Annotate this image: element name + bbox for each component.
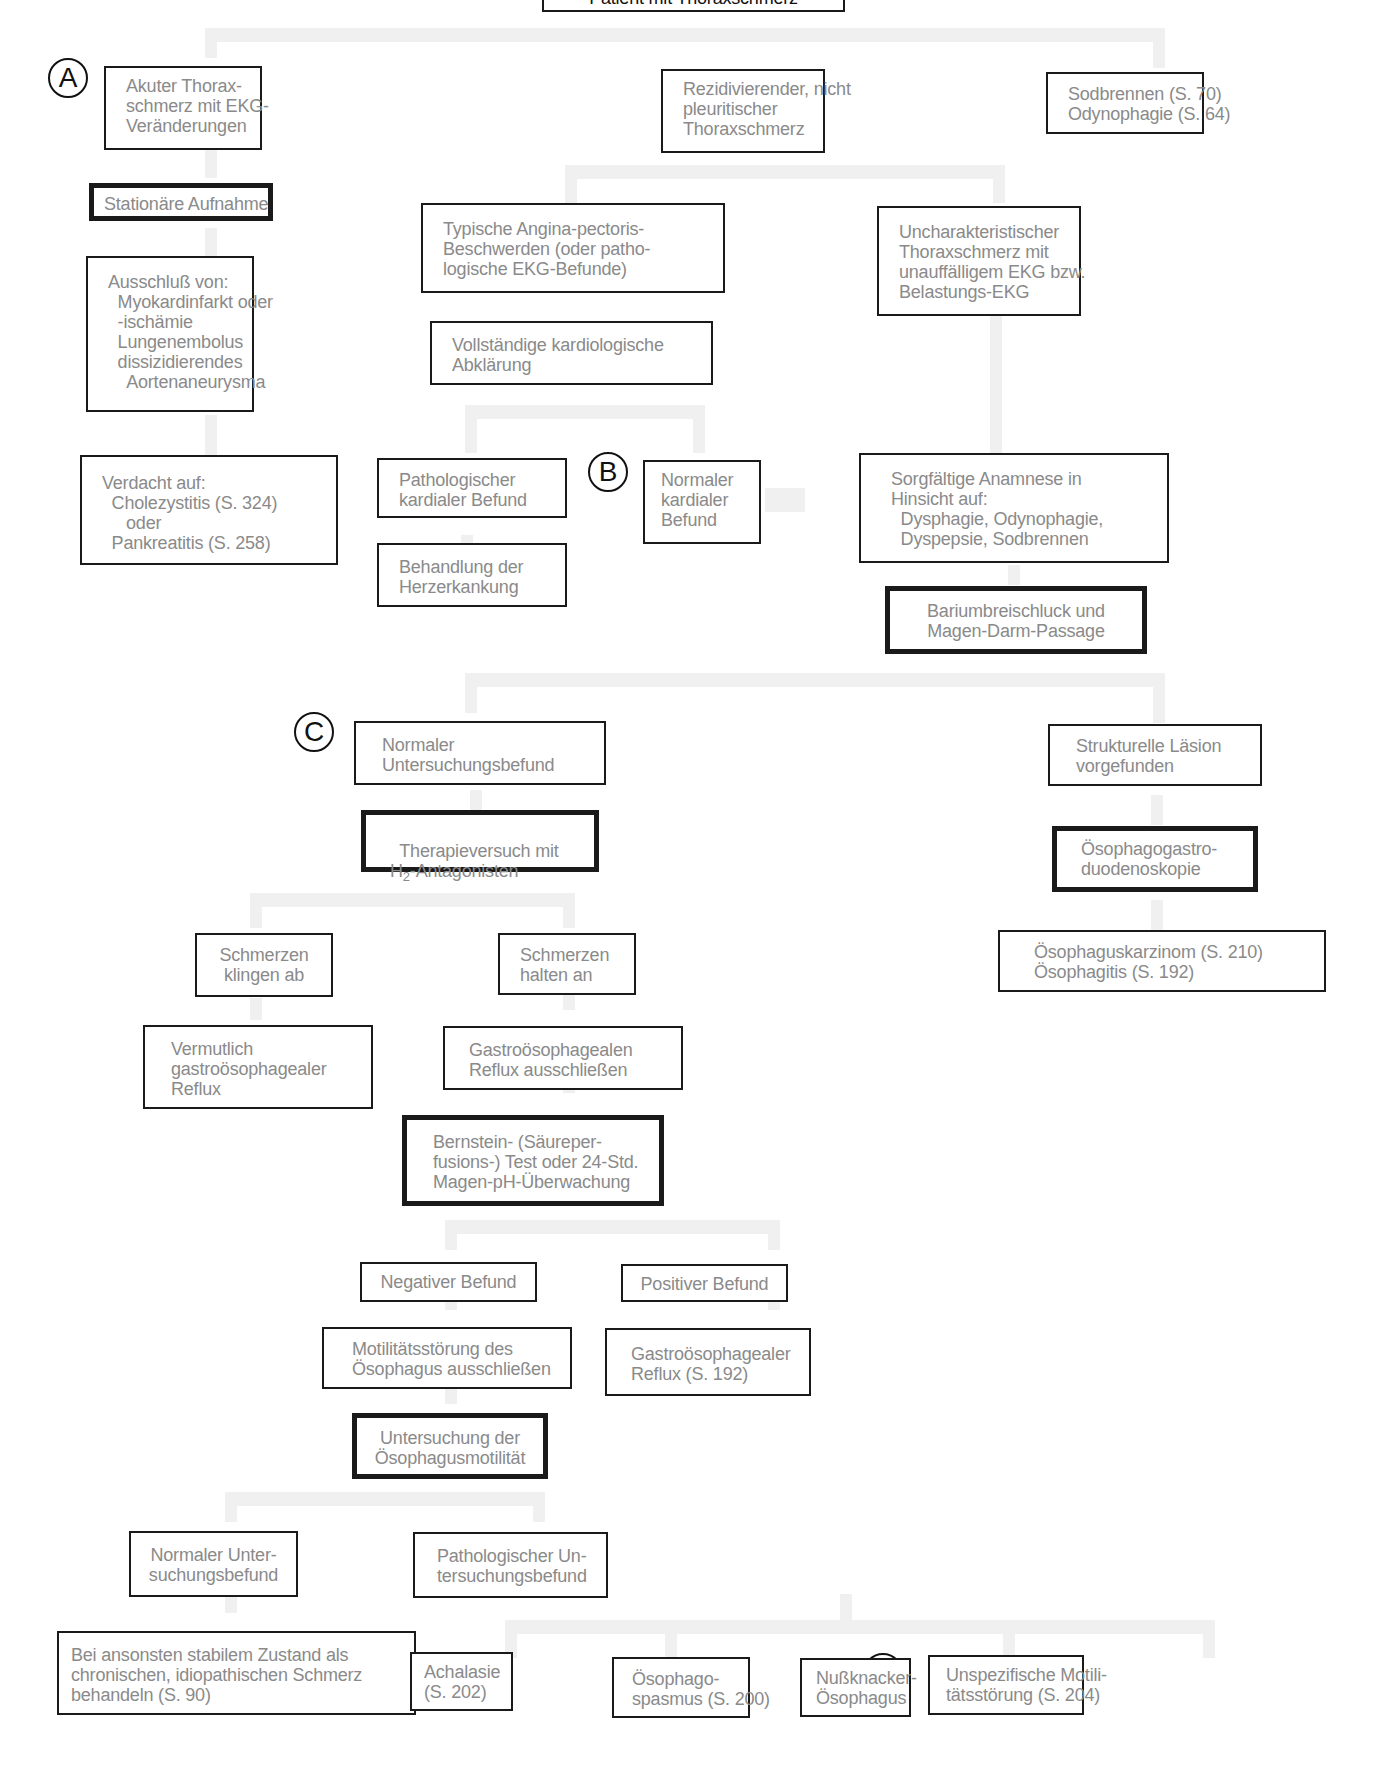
node-admission: Stationäre Aufnahme <box>89 183 273 221</box>
node-carcinoma: Ösophaguskarzinom (S. 210) Ösophagitis (… <box>998 930 1326 992</box>
title-node: Patient mit Thoraxschmerz <box>542 0 845 12</box>
connector <box>225 1492 237 1522</box>
node-cardio-workup: Vollständige kardiologische Abklärung <box>430 321 713 385</box>
connector <box>1008 565 1020 585</box>
connector <box>205 415 217 455</box>
h2-line1: Therapieversuch mit <box>399 841 558 861</box>
connector <box>470 790 482 810</box>
connector <box>1151 795 1163 825</box>
node-positive: Positiver Befund <box>621 1264 788 1302</box>
node-pain-subsides: Schmerzen klingen ab <box>195 933 333 997</box>
connector <box>565 165 1005 179</box>
connector <box>205 148 217 178</box>
h2-rest: -Antagonisten <box>410 861 518 881</box>
node-pathological-exam: Pathologischer Un- tersuchungsbefund <box>413 1532 608 1598</box>
connector <box>768 1220 780 1250</box>
connector <box>563 893 575 928</box>
node-recurrent-chest-pain: Rezidivierender, nicht pleuritischer Tho… <box>661 69 825 153</box>
connector <box>1151 900 1163 930</box>
node-normal-exam-2: Normaler Unter- suchungsbefund <box>129 1531 298 1597</box>
node-typical-angina: Typische Angina-pectoris- Beschwerden (o… <box>421 203 725 293</box>
connector <box>225 1492 545 1506</box>
node-uncharacteristic: Uncharakteristischer Thoraxschmerz mit u… <box>877 206 1081 316</box>
node-suspicion: Verdacht auf: Cholezystitis (S. 324) ode… <box>80 455 338 565</box>
node-negative: Negativer Befund <box>360 1262 537 1302</box>
connector <box>250 893 262 928</box>
node-motility-exam: Untersuchung der Ösophagusmotilität <box>352 1413 548 1479</box>
connector <box>1203 1620 1215 1658</box>
connector <box>533 1492 545 1522</box>
connector <box>693 405 705 453</box>
connector <box>445 1220 780 1234</box>
connector <box>993 165 1005 203</box>
node-egd: Ösophagogastro- duodenoskopie <box>1052 826 1258 892</box>
node-exclude-motility: Motilitätsstörung des Ösophagus ausschli… <box>322 1327 572 1389</box>
node-barium: Bariumbreischluck und Magen-Darm-Passage <box>885 586 1147 654</box>
connector <box>1003 1620 1015 1658</box>
node-heartburn: Sodbrennen (S. 70) Odynophagie (S. 64) <box>1046 72 1204 134</box>
connector <box>1153 673 1165 723</box>
node-acute-chest-pain: Akuter Thorax- schmerz mit EKG- Veränder… <box>104 66 262 150</box>
h2-h: H <box>390 861 403 881</box>
node-spasm: Ösophago- spasmus (S. 200) <box>612 1657 750 1718</box>
connector <box>250 893 575 907</box>
connector <box>205 228 217 256</box>
connector <box>665 1620 677 1658</box>
connector <box>565 165 577 203</box>
node-exclusion: Ausschluß von: Myokardinfarkt oder -isch… <box>86 256 254 412</box>
connector <box>465 405 477 453</box>
node-exclude-reflux: Gastroösophagealen Reflux ausschließen <box>443 1026 683 1090</box>
marker-b: B <box>588 452 628 492</box>
connector <box>990 315 1002 455</box>
connector <box>505 1620 1215 1634</box>
connector <box>465 673 477 713</box>
node-nutcracker: Nußknacker- Ösophagus <box>800 1658 911 1717</box>
node-pain-persists: Schmerzen halten an <box>498 933 636 995</box>
marker-a: A <box>48 58 88 98</box>
connector <box>840 1594 852 1622</box>
node-treatment-heart: Behandlung der Herzerkankung <box>377 543 567 607</box>
connector <box>445 1220 457 1250</box>
marker-c: C <box>294 712 334 752</box>
connector <box>765 488 805 512</box>
node-pathological-cardiac: Pathologischer kardialer Befund <box>377 458 567 518</box>
h2-sub: 2 <box>403 869 410 884</box>
node-structural-lesion: Strukturelle Läsion vorgefunden <box>1048 724 1262 786</box>
node-normal-exam: Normaler Untersuchungsbefund <box>354 721 606 785</box>
connector <box>205 28 1165 42</box>
node-achalasia: Achalasie (S. 202) <box>410 1652 513 1711</box>
node-h2-trial: Therapieversuch mitH2-Antagonisten <box>361 810 599 872</box>
node-presumed-reflux: Vermutlich gastroösophagealer Reflux <box>143 1025 373 1109</box>
node-reflux-result: Gastroösophagealer Reflux (S. 192) <box>605 1328 811 1396</box>
node-careful-history: Sorgfältige Anamnese in Hinsicht auf: Dy… <box>859 453 1169 563</box>
node-normal-cardiac: Normaler kardialer Befund <box>643 460 761 544</box>
connector <box>465 405 705 419</box>
connector <box>465 673 1165 687</box>
connector <box>1153 28 1165 68</box>
node-bernstein: Bernstein- (Säureper- fusions-) Test ode… <box>402 1115 664 1206</box>
connector <box>250 998 262 1020</box>
node-nonspecific: Unspezifische Motili- tätsstörung (S. 20… <box>928 1655 1084 1715</box>
connector <box>205 28 217 58</box>
node-chronic-pain: Bei ansonsten stabilem Zustand als chron… <box>57 1631 416 1715</box>
